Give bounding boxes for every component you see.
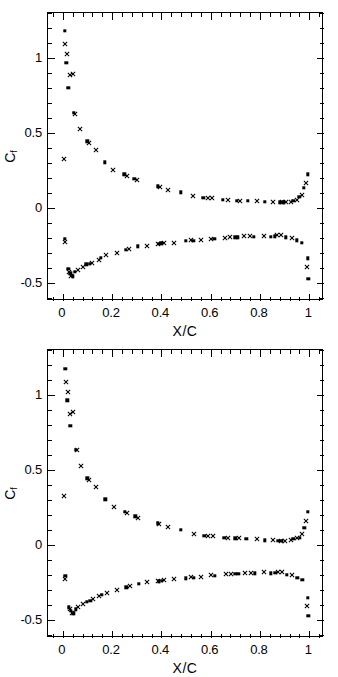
x-minor-tick [102,350,103,354]
data-point-square [300,241,303,244]
x-minor-tick [83,297,84,301]
x-minor-tick [171,13,172,17]
y-major-tick [317,133,324,134]
data-point-cross [188,237,194,243]
data-point-cross [134,177,140,183]
data-point-cross [208,572,214,578]
data-point-cross [190,193,196,199]
y-tick-label: 0.5 [8,463,42,476]
y-minor-tick [48,163,52,164]
x-minor-tick [221,13,222,17]
y-minor-tick [320,163,324,164]
x-minor-tick [181,634,182,638]
y-minor-tick [320,118,324,119]
x-minor-tick [290,350,291,354]
data-point-square [246,199,249,202]
x-minor-tick [201,297,202,301]
x-minor-tick [73,634,74,638]
y-minor-tick [48,223,52,224]
y-major-tick [317,470,324,471]
data-point-cross [86,140,92,146]
x-minor-tick [280,350,281,354]
y-minor-tick [48,440,52,441]
y-major-tick [317,620,324,621]
data-point-cross [144,579,150,585]
x-minor-tick [102,297,103,301]
x-major-tick [161,631,162,638]
x-tick-label: 0 [58,306,65,319]
y-minor-tick [320,193,324,194]
x-major-tick [161,294,162,301]
y-minor-tick [320,440,324,441]
data-point-cross [161,240,167,246]
y-minor-tick [48,268,52,269]
x-major-tick [112,631,113,638]
x-minor-tick [270,13,271,17]
x-minor-tick [201,634,202,638]
x-minor-tick [250,634,251,638]
data-point-cross [191,531,197,537]
x-minor-tick [92,634,93,638]
data-point-cross [241,233,247,239]
y-minor-tick [48,605,52,606]
data-point-cross [294,197,300,203]
data-point-square [68,424,71,427]
y-tick-label: -0.5 [8,276,42,289]
y-major-tick [48,395,55,396]
data-point-cross [127,583,133,589]
x-major-tick [260,13,261,20]
data-point-square [301,578,304,581]
x-minor-tick [230,297,231,301]
x-minor-tick [53,13,54,17]
data-point-cross [65,389,71,395]
data-point-square [306,173,309,176]
x-minor-tick [171,297,172,301]
y-minor-tick [48,425,52,426]
data-point-square [306,510,309,513]
data-point-cross [289,235,295,241]
y-minor-tick [320,73,324,74]
y-major-tick [48,283,55,284]
chart-panel-bottom: 00.20.40.60.81-0.500.51X/CCf [0,337,338,673]
data-point-cross [171,240,177,246]
x-major-tick [309,631,310,638]
x-minor-tick [181,297,182,301]
x-minor-tick [201,350,202,354]
data-point-cross [270,199,276,205]
y-minor-tick [320,485,324,486]
x-minor-tick [102,13,103,17]
data-point-cross [225,535,231,541]
y-minor-tick [320,380,324,381]
plot-frame [47,12,323,300]
data-point-cross [247,233,253,239]
y-minor-tick [48,118,52,119]
data-point-cross [303,518,309,524]
data-point-cross [80,601,86,607]
x-minor-tick [132,297,133,301]
y-minor-tick [48,455,52,456]
y-minor-tick [320,500,324,501]
data-point-cross [69,610,75,616]
x-minor-tick [53,297,54,301]
y-minor-tick [48,13,52,14]
data-point-cross [114,587,120,593]
x-minor-tick [132,13,133,17]
data-point-cross [299,192,305,198]
plot-frame [47,349,323,637]
x-tick-label: 0.2 [102,643,119,656]
y-minor-tick [48,410,52,411]
y-axis-title: Cf [2,150,19,163]
data-point-square [306,257,309,260]
x-tick-label: 0 [58,643,65,656]
data-point-cross [237,198,243,204]
x-axis-title: X/C [173,660,198,676]
x-minor-tick [290,297,291,301]
x-minor-tick [122,350,123,354]
y-minor-tick [320,103,324,104]
y-minor-tick [48,28,52,29]
data-point-cross [124,173,130,179]
data-point-cross [93,147,99,153]
data-point-cross [188,574,194,580]
y-minor-tick [48,635,52,636]
data-point-square [67,86,70,89]
